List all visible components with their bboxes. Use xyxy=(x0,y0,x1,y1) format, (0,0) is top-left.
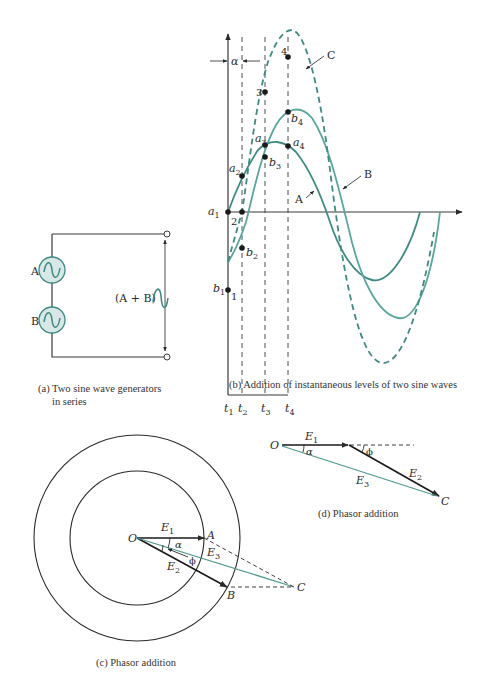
label-4: 4 xyxy=(281,46,287,57)
caption-d: (d) Phasor addition xyxy=(318,508,399,520)
label-origin: O xyxy=(128,532,137,545)
label-b2: b2 xyxy=(246,246,258,261)
alpha-offset-indicator: α xyxy=(210,55,260,68)
label-a3: a3 xyxy=(255,132,267,147)
generator-a-label: A xyxy=(30,265,40,278)
panel-d-phasor: O C E1 E2 E3 α ϕ (d) Phasor addition xyxy=(270,430,450,520)
alpha-arc xyxy=(168,538,170,548)
label-phi: ϕ xyxy=(366,446,373,457)
callout-b-arrow xyxy=(343,176,361,189)
phi-arc xyxy=(362,445,364,452)
label-alpha: α xyxy=(175,539,182,550)
alpha-label: α xyxy=(231,55,239,68)
label-a4: a4 xyxy=(293,136,305,151)
label-b1: b1 xyxy=(213,282,225,297)
label-1: 1 xyxy=(231,291,237,302)
curve-c-sum xyxy=(228,30,434,363)
label-e3: E3 xyxy=(355,474,369,489)
alpha-arc xyxy=(303,445,304,452)
panel-b-waveforms: α a1 2 a2 a3 a4 b1 1 b2 b3 xyxy=(208,30,462,417)
label-e2: E2 xyxy=(408,467,422,482)
label-alpha: α xyxy=(306,446,313,457)
tick-t2: t2 xyxy=(238,402,248,417)
label-phi: ϕ xyxy=(189,555,196,566)
figure-canvas: A B (A + B) (a) Two sine wave generators… xyxy=(0,0,479,677)
generator-b-label: B xyxy=(31,315,39,328)
callout-c-arrow xyxy=(306,56,324,69)
curve-c-label: C xyxy=(327,49,335,62)
label-3: 3 xyxy=(256,87,262,98)
label-b4: b4 xyxy=(291,112,303,127)
label-e2: E2 xyxy=(166,560,180,575)
terminal-bottom xyxy=(164,354,170,360)
tick-t4: t4 xyxy=(285,402,295,417)
label-e1: E1 xyxy=(160,521,174,536)
label-point-a: A xyxy=(206,529,215,542)
generator-a xyxy=(39,257,65,283)
tick-t1: t1 xyxy=(224,402,234,417)
caption-b-text: (b) Addition of instantaneous levels of … xyxy=(229,379,457,391)
label-point-c: C xyxy=(441,495,450,508)
terminal-top xyxy=(164,231,170,237)
label-a1: a1 xyxy=(208,205,220,220)
curve-a-label: A xyxy=(294,193,304,206)
caption-c: (c) Phasor addition xyxy=(96,657,177,669)
panel-c-phasor-circles: O A B C E1 E2 E3 α ϕ (c) Phasor addition xyxy=(34,435,306,669)
phasor-e2 xyxy=(349,445,439,496)
label-origin: O xyxy=(270,439,279,452)
panel-a-circuit: A B (A + B) (a) Two sine wave generators… xyxy=(30,231,170,407)
label-b3: b3 xyxy=(269,156,281,171)
label-e3: E3 xyxy=(206,546,220,561)
label-a2: a2 xyxy=(229,162,241,177)
label-2: 2 xyxy=(231,216,237,227)
callout-a-arrow xyxy=(306,191,314,198)
output-label: (A + B) xyxy=(115,292,156,305)
tick-t3: t3 xyxy=(261,402,271,417)
phasor-e3 xyxy=(137,538,294,587)
curve-b-label: B xyxy=(364,168,372,181)
label-point-c: C xyxy=(297,581,306,594)
caption-a-line1: (a) Two sine wave generators xyxy=(38,383,161,395)
caption-a-line2: in series xyxy=(52,396,87,407)
generator-b xyxy=(39,307,65,333)
label-point-b: B xyxy=(226,589,235,602)
label-e1: E1 xyxy=(304,430,318,445)
